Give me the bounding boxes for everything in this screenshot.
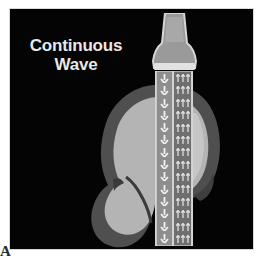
up-arrow-icon xyxy=(181,198,185,206)
up-arrow-icon xyxy=(181,111,185,119)
up-arrow-icon xyxy=(176,111,180,119)
down-arrow-icon xyxy=(160,123,169,132)
up-arrow-row xyxy=(176,185,190,193)
up-arrow-row xyxy=(176,235,190,243)
down-arrow-icon xyxy=(160,209,169,218)
caption-line-1: Continuous xyxy=(18,36,134,55)
up-arrow-icon xyxy=(186,173,190,181)
figure-root: Continuous Wave A xyxy=(0,0,264,265)
illustration-panel: Continuous Wave xyxy=(10,9,253,249)
up-arrow-row xyxy=(176,148,190,156)
up-arrow-icon xyxy=(186,86,190,94)
transducer-probe xyxy=(151,13,198,73)
figure-letter-label: A xyxy=(0,243,14,260)
down-arrow-icon xyxy=(160,172,169,181)
up-arrow-icon xyxy=(181,185,185,193)
down-arrow-icon xyxy=(160,185,169,194)
up-arrow-icon xyxy=(181,210,185,218)
beam-transmit-lane xyxy=(157,72,172,245)
up-arrow-icon xyxy=(186,99,190,107)
up-arrow-row xyxy=(176,173,190,181)
up-arrow-row xyxy=(176,74,190,82)
down-arrow-icon xyxy=(160,197,169,206)
up-arrow-icon xyxy=(186,148,190,156)
up-arrow-row xyxy=(176,111,190,119)
down-arrow-icon xyxy=(160,99,169,108)
up-arrow-icon xyxy=(186,124,190,132)
up-arrow-row xyxy=(176,86,190,94)
up-arrow-row xyxy=(176,161,190,169)
up-arrow-icon xyxy=(186,198,190,206)
down-arrow-icon xyxy=(160,86,169,95)
up-arrow-icon xyxy=(176,223,180,231)
down-arrow-icon xyxy=(160,160,169,169)
up-arrow-row xyxy=(176,136,190,144)
up-arrow-icon xyxy=(181,74,185,82)
up-arrow-icon xyxy=(186,235,190,243)
up-arrow-icon xyxy=(181,148,185,156)
up-arrow-icon xyxy=(181,235,185,243)
transducer-footplate xyxy=(154,63,195,70)
up-arrow-icon xyxy=(181,173,185,181)
up-arrow-icon xyxy=(181,161,185,169)
up-arrow-icon xyxy=(176,185,180,193)
up-arrow-icon xyxy=(176,235,180,243)
down-arrow-icon xyxy=(160,74,169,83)
up-arrow-icon xyxy=(181,86,185,94)
up-arrow-row xyxy=(176,198,190,206)
up-arrow-icon xyxy=(176,74,180,82)
up-arrow-row xyxy=(176,223,190,231)
up-arrow-icon xyxy=(186,185,190,193)
down-arrow-icon xyxy=(160,135,169,144)
up-arrow-icon xyxy=(176,210,180,218)
transducer-highlight xyxy=(165,17,184,42)
up-arrow-icon xyxy=(181,136,185,144)
up-arrow-icon xyxy=(186,111,190,119)
up-arrow-icon xyxy=(176,124,180,132)
up-arrow-icon xyxy=(186,223,190,231)
up-arrow-row xyxy=(176,210,190,218)
up-arrow-icon xyxy=(176,136,180,144)
up-arrow-icon xyxy=(176,198,180,206)
up-arrow-icon xyxy=(176,148,180,156)
up-arrow-icon xyxy=(181,99,185,107)
up-arrow-icon xyxy=(186,161,190,169)
figure-caption: Continuous Wave xyxy=(18,36,134,74)
ultrasound-beam-column xyxy=(155,71,193,246)
up-arrow-icon xyxy=(181,223,185,231)
up-arrow-icon xyxy=(181,124,185,132)
down-arrow-icon xyxy=(160,222,169,231)
up-arrow-icon xyxy=(186,74,190,82)
up-arrow-row xyxy=(176,124,190,132)
caption-line-2: Wave xyxy=(18,55,134,74)
up-arrow-icon xyxy=(176,161,180,169)
up-arrow-icon xyxy=(186,210,190,218)
up-arrow-icon xyxy=(176,173,180,181)
beam-receive-lane xyxy=(174,72,191,245)
down-arrow-icon xyxy=(160,111,169,120)
up-arrow-icon xyxy=(186,136,190,144)
down-arrow-icon xyxy=(160,148,169,157)
down-arrow-icon xyxy=(160,234,169,243)
up-arrow-icon xyxy=(176,86,180,94)
up-arrow-icon xyxy=(176,99,180,107)
up-arrow-row xyxy=(176,99,190,107)
